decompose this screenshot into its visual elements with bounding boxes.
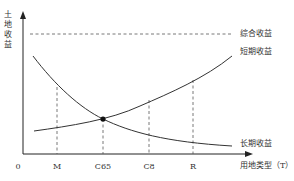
tick-label-c65: C65: [95, 162, 111, 171]
tick-label-m: M: [53, 162, 61, 171]
intersection-point: [100, 116, 105, 121]
short-term-income-curve: [34, 56, 232, 131]
tick-label-r: R: [190, 162, 196, 171]
origin-label: 0: [15, 162, 20, 171]
legend-combined-income: 综合收益: [240, 30, 272, 38]
x-axis-label: 用地类型（T）: [240, 162, 293, 170]
long-term-income-curve: [33, 56, 232, 146]
x-axis-arrow-icon: [245, 151, 253, 157]
legend-short-term-income: 短期收益: [240, 48, 272, 56]
y-axis-arrow-icon: [20, 11, 26, 19]
legend-long-term-income: 长期收益: [240, 140, 272, 148]
y-axis-label: 土地收益: [3, 10, 13, 50]
tick-label-c8: C8: [143, 162, 154, 171]
chart-canvas: [0, 0, 294, 181]
